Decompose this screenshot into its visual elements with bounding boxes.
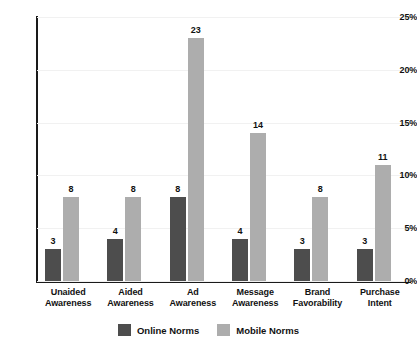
- category-label-line: Ad: [162, 287, 224, 298]
- bar-value-label: 8: [68, 184, 73, 194]
- bar-value-label: 3: [362, 236, 367, 246]
- bar: 3: [357, 249, 373, 281]
- y-axis-tick-label: 0%: [385, 276, 417, 286]
- y-axis-tick-label: 10%: [385, 170, 417, 180]
- category-label: AidedAwareness: [99, 287, 161, 308]
- y-axis-tick-label: 15%: [385, 118, 417, 128]
- category-label-line: Unaided: [37, 287, 99, 298]
- bar-value-label: 3: [50, 236, 55, 246]
- bar-value-label: 4: [113, 226, 118, 236]
- category-label: MessageAwareness: [224, 287, 286, 308]
- bar-group: 38: [37, 17, 99, 281]
- gridline: [37, 281, 411, 282]
- category-label-line: Purchase: [349, 287, 411, 298]
- bar-group: 38: [286, 17, 348, 281]
- legend-item[interactable]: Mobile Norms: [217, 324, 299, 336]
- bar-group: 823: [162, 17, 224, 281]
- bar: 8: [312, 197, 328, 281]
- plot-area: 384882341438311: [37, 17, 411, 281]
- legend-item[interactable]: Online Norms: [118, 324, 199, 336]
- category-label-line: Intent: [349, 298, 411, 309]
- y-axis-tick-label: 25%: [385, 12, 417, 22]
- category-label-line: Brand: [286, 287, 348, 298]
- y-axis-tick-label: 20%: [385, 65, 417, 75]
- category-label-line: Awareness: [99, 298, 161, 309]
- bar-value-label: 11: [378, 152, 388, 162]
- bar: 8: [170, 197, 186, 281]
- legend-swatch-icon: [118, 324, 131, 336]
- category-label-line: Message: [224, 287, 286, 298]
- bar: 4: [107, 239, 123, 281]
- bar-value-label: 8: [318, 184, 323, 194]
- bar: 8: [63, 197, 79, 281]
- bar-group: 311: [349, 17, 411, 281]
- legend-swatch-icon: [217, 324, 230, 336]
- legend-label: Mobile Norms: [236, 325, 299, 336]
- legend-label: Online Norms: [137, 325, 199, 336]
- y-axis-tick-label: 5%: [385, 223, 417, 233]
- bar: 3: [45, 249, 61, 281]
- bar-value-label: 14: [253, 120, 263, 130]
- category-label-line: Aided: [99, 287, 161, 298]
- bar-group: 48: [99, 17, 161, 281]
- category-label-line: Awareness: [162, 298, 224, 309]
- bar-value-label: 4: [237, 226, 242, 236]
- category-label: UnaidedAwareness: [37, 287, 99, 308]
- category-label-line: Awareness: [37, 298, 99, 309]
- category-label-line: Awareness: [224, 298, 286, 309]
- category-label-line: Favorability: [286, 298, 348, 309]
- bar: 14: [250, 133, 266, 281]
- bar-value-label: 23: [191, 25, 201, 35]
- chart-legend: Online NormsMobile Norms: [0, 324, 417, 336]
- bar-value-label: 8: [175, 184, 180, 194]
- bar-value-label: 3: [300, 236, 305, 246]
- category-label: BrandFavorability: [286, 287, 348, 308]
- bar-value-label: 8: [131, 184, 136, 194]
- bar-chart: 384882341438311 0%5%10%15%20%25% Unaided…: [0, 0, 417, 350]
- category-label: PurchaseIntent: [349, 287, 411, 308]
- bar-group: 414: [224, 17, 286, 281]
- bar: 3: [294, 249, 310, 281]
- bar: 4: [232, 239, 248, 281]
- bar: 23: [188, 38, 204, 281]
- category-label: AdAwareness: [162, 287, 224, 308]
- bar: 8: [125, 197, 141, 281]
